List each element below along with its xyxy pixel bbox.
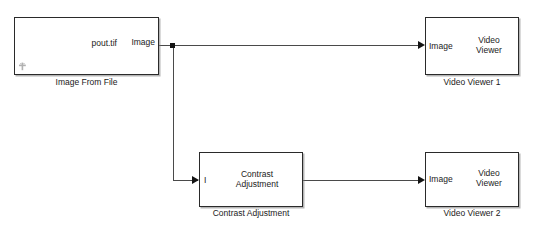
- block-video-viewer-2-label: Video Viewer: [464, 168, 514, 189]
- signal-branch-junction[interactable]: [170, 43, 175, 48]
- anchor-glyph-icon: [18, 62, 27, 71]
- signal-line-branch-vertical[interactable]: [173, 45, 174, 180]
- block-caption-video-viewer-2: Video Viewer 2: [425, 209, 519, 218]
- signal-line-contrast-to-viewer2[interactable]: [303, 180, 423, 181]
- block-video-viewer-1[interactable]: Image Video Viewer: [425, 17, 519, 75]
- arrow-head-viewer2-input: [418, 176, 425, 184]
- block-image-from-file-filename: pout.tif: [15, 38, 117, 48]
- model-canvas: pout.tif Image Image From File Image Vid…: [0, 0, 541, 231]
- block-video-viewer-2[interactable]: Image Video Viewer: [425, 152, 519, 207]
- input-port-label-image-viewer1: Image: [429, 42, 453, 51]
- block-caption-image-from-file: Image From File: [14, 78, 159, 87]
- block-contrast-adjustment[interactable]: I Contrast Adjustment: [199, 152, 303, 207]
- input-port-label-image-viewer2: Image: [429, 175, 453, 184]
- block-image-from-file[interactable]: pout.tif Image: [14, 17, 159, 75]
- block-caption-video-viewer-1: Video Viewer 1: [425, 78, 519, 87]
- block-contrast-adjustment-label: Contrast Adjustment: [216, 169, 298, 190]
- arrow-head-viewer1-input: [418, 41, 425, 49]
- signal-line-source-to-viewer1[interactable]: [159, 45, 423, 46]
- block-caption-contrast-adjustment: Contrast Adjustment: [189, 209, 313, 218]
- input-port-label-i-contrast: I: [204, 176, 206, 185]
- arrow-head-contrast-input: [192, 176, 199, 184]
- output-port-label-image: Image: [131, 38, 155, 47]
- block-video-viewer-1-label: Video Viewer: [464, 35, 514, 56]
